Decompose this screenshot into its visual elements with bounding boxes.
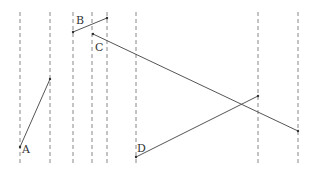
segment-label-c: C [95,41,103,54]
segment-c [93,34,298,131]
endpoint-dot [72,31,74,33]
segment-label-b: B [76,14,84,27]
dashed-guides [20,12,298,163]
endpoint-dot [92,33,94,35]
segment-a [20,79,50,147]
endpoint-dot [106,17,108,19]
segment-d [136,96,258,157]
endpoint-dot [49,78,51,80]
endpoint-dot [19,146,21,148]
segments: ABCD [19,14,299,158]
diagram-canvas: ABCD [0,0,315,170]
segment-label-d: D [137,142,146,155]
endpoint-dot [297,130,299,132]
segment-label-a: A [21,143,31,156]
endpoint-dot [257,95,259,97]
endpoint-dot [135,156,137,158]
segments-diagram: ABCD [0,0,315,170]
